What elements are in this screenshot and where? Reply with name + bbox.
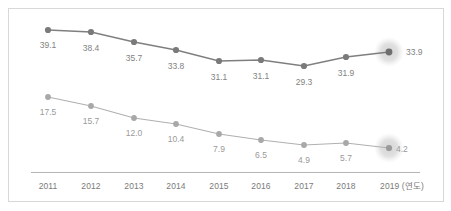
upper-series-value-label: 38.4	[83, 44, 100, 53]
upper-series-value-label: 31.1	[253, 72, 270, 81]
lower-series-marker	[216, 131, 222, 137]
upper-series-marker	[173, 47, 179, 53]
upper-series-marker	[131, 39, 137, 45]
upper-series-value-label: 31.1	[211, 73, 228, 82]
lower-series-value-label: 6.5	[255, 151, 267, 160]
chart-container: 39.1 38.4 35.7 33.8 31.1 31.1 29.3 31.9 …	[0, 0, 451, 211]
upper-series-marker	[258, 57, 264, 63]
x-tick-label-2011: 2011	[39, 182, 58, 191]
x-tick-label-2019-with-unit: 2019 (연도)	[380, 182, 424, 191]
upper-series-value-label-highlight: 33.9	[406, 48, 423, 57]
lower-series-marker	[45, 94, 51, 100]
upper-series-marker	[88, 29, 94, 35]
upper-series-value-label: 33.8	[168, 62, 185, 71]
upper-series-marker	[301, 63, 307, 69]
x-tick-label-2013: 2013	[124, 182, 143, 191]
upper-series-value-label: 39.1	[40, 41, 57, 50]
x-tick-label-2012: 2012	[81, 182, 100, 191]
lower-series-marker	[343, 140, 349, 146]
upper-series-value-label: 35.7	[126, 54, 143, 63]
lower-series-marker	[258, 137, 264, 143]
lower-series-value-label: 10.4	[168, 135, 185, 144]
lower-series-value-label: 12.0	[126, 129, 143, 138]
lower-series-value-label-highlight: 4.2	[396, 145, 408, 154]
lower-series-marker	[301, 142, 307, 148]
x-tick-label-2018: 2018	[336, 182, 355, 191]
lower-series-value-label: 7.9	[213, 145, 225, 154]
lower-series-marker	[386, 145, 392, 151]
upper-series-marker	[386, 49, 393, 56]
lower-series-value-label: 15.7	[83, 117, 100, 126]
x-tick-label-2017: 2017	[294, 182, 313, 191]
upper-series-marker	[45, 27, 51, 33]
lower-series-marker	[88, 103, 94, 109]
upper-series-value-label: 29.3	[296, 78, 313, 87]
upper-series-marker	[216, 58, 222, 64]
chart-plot-area	[0, 0, 451, 211]
x-tick-label-2015: 2015	[209, 182, 228, 191]
upper-series-value-label: 31.9	[338, 69, 355, 78]
upper-series-marker	[343, 54, 349, 60]
lower-series-value-label: 17.5	[40, 108, 57, 117]
lower-series-marker	[173, 121, 179, 127]
lower-series-value-label: 4.9	[298, 156, 310, 165]
x-tick-label-2014: 2014	[166, 182, 185, 191]
x-tick-label-2016: 2016	[251, 182, 270, 191]
lower-series-marker	[131, 115, 137, 121]
lower-series-value-label: 5.7	[340, 154, 352, 163]
